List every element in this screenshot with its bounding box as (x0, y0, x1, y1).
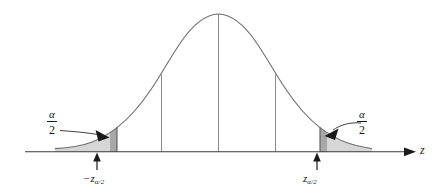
right-tail-alpha-label: α 2 (357, 109, 367, 138)
right-tick-arrowhead-icon (313, 153, 321, 162)
left-tick-arrowhead-icon (93, 153, 101, 162)
axis-arrowhead-icon (404, 147, 416, 156)
left-alpha-numerator: α (47, 109, 57, 121)
right-critical-subscript: α/2 (307, 178, 317, 186)
normal-curve (55, 14, 372, 149)
critical-value-pointers (93, 153, 321, 170)
right-critical-value-label: zα/2 (303, 172, 317, 186)
ordinate-lines (117, 14, 320, 152)
left-tail-alpha-label: α 2 (47, 109, 57, 138)
right-fraction-bar (357, 121, 367, 122)
normal-distribution-figure: α 2 α 2 −zα/2 zα/2 z (0, 0, 438, 195)
left-critical-value-label: −zα/2 (83, 172, 104, 186)
left-fraction-bar (47, 121, 57, 122)
distribution-chart-svg (0, 0, 438, 195)
left-alpha-denominator: 2 (47, 123, 57, 136)
right-alpha-denominator: 2 (357, 123, 367, 136)
right-alpha-numerator: α (357, 109, 367, 121)
left-leader-line (60, 131, 98, 135)
left-critical-subscript: α/2 (95, 178, 105, 186)
axis-variable-label: z (420, 143, 425, 158)
left-alpha-fraction: α 2 (47, 109, 57, 136)
leader-lines (60, 123, 361, 142)
right-alpha-fraction: α 2 (357, 109, 367, 136)
